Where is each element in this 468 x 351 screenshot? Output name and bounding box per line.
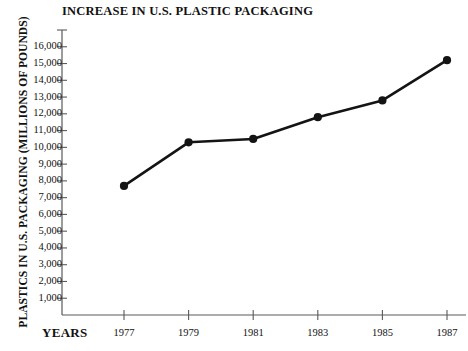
chart-figure: INCREASE IN U.S. PLASTIC PACKAGING PLAST… — [0, 0, 468, 351]
x-axis-tick-label: 1987 — [424, 327, 468, 338]
data-point-marker — [185, 138, 193, 146]
axis-ticks — [57, 30, 447, 320]
y-axis-tick-label: 9,000 — [38, 158, 62, 169]
x-axis-tick-label: 1977 — [101, 327, 147, 338]
plot-area — [0, 0, 468, 351]
y-axis-tick-label: 15,000 — [33, 57, 62, 68]
y-axis-tick-label: 8,000 — [38, 174, 62, 185]
axes — [62, 30, 466, 315]
y-axis-tick-label: 2,000 — [38, 275, 62, 286]
data-line-series — [124, 60, 447, 186]
y-axis-tick-label: 5,000 — [38, 225, 62, 236]
y-axis-tick-label: 12,000 — [33, 107, 62, 118]
y-axis-tick-label: 6,000 — [38, 208, 62, 219]
data-point-marker — [378, 96, 386, 104]
x-axis-tick-label: 1983 — [295, 327, 341, 338]
data-point-marker — [120, 182, 128, 190]
y-axis-tick-label: 11,000 — [34, 124, 63, 135]
data-point-markers — [120, 56, 451, 190]
y-axis-tick-label: 14,000 — [33, 74, 62, 85]
data-point-marker — [314, 113, 322, 121]
data-point-marker — [249, 135, 257, 143]
y-axis-tick-label: 10,000 — [33, 141, 62, 152]
x-axis-tick-label: 1981 — [230, 327, 276, 338]
y-axis-tick-label: 16,000 — [33, 40, 62, 51]
y-axis-tick-label: 4,000 — [38, 241, 62, 252]
y-axis-tick-label: 1,000 — [38, 292, 62, 303]
y-axis-tick-label: 13,000 — [33, 91, 62, 102]
data-point-marker — [443, 56, 451, 64]
y-axis-tick-label: 3,000 — [38, 258, 62, 269]
x-axis-tick-label: 1979 — [166, 327, 212, 338]
x-axis-tick-label: 1985 — [359, 327, 405, 338]
y-axis-tick-label: 7,000 — [38, 191, 62, 202]
